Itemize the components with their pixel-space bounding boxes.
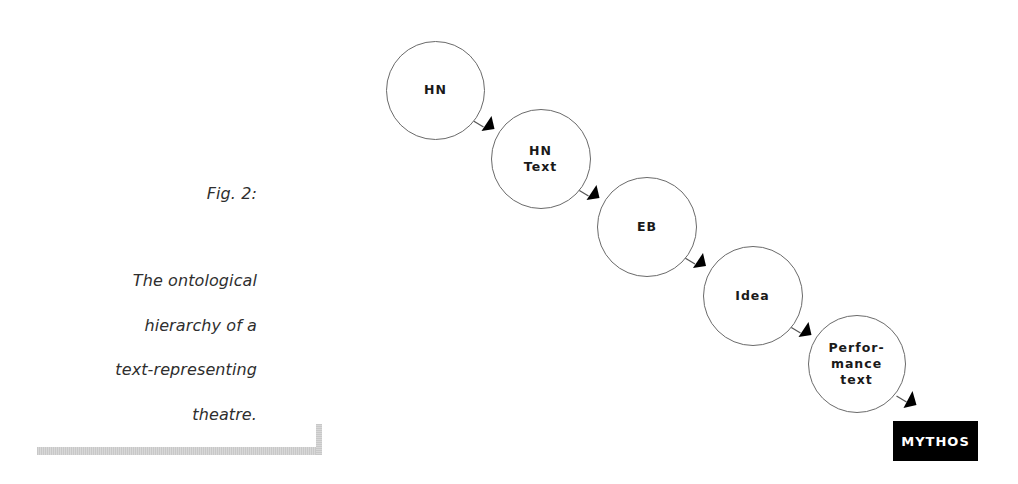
node-hn-text-label: HN Text — [524, 143, 557, 175]
node-performance-text-label: Perfor- mance text — [828, 340, 884, 388]
node-eb: EB — [597, 177, 697, 277]
caption-line-3: text-representing — [115, 360, 257, 380]
arrow-hn-to-hn-text — [474, 116, 495, 131]
node-performance-text: Perfor- mance text — [808, 315, 906, 413]
node-hn: HN — [386, 41, 485, 140]
caption-line-4: theatre. — [192, 405, 257, 425]
node-eb-label: EB — [637, 219, 657, 235]
node-hn-text: HN Text — [491, 109, 591, 209]
arrow-performance-text-to-mythos — [897, 391, 917, 408]
caption-bracket-vertical — [316, 424, 322, 455]
caption-line-1: The ontological — [133, 271, 257, 291]
node-idea: Idea — [703, 246, 803, 346]
caption-bracket-horizontal — [37, 447, 322, 455]
terminal-mythos: MYTHOS — [893, 421, 978, 461]
node-idea-label: Idea — [735, 288, 770, 304]
caption-line-2: hierarchy of a — [144, 316, 257, 336]
figure-label: Fig. 2: — [207, 184, 257, 204]
node-hn-label: HN — [424, 82, 447, 98]
